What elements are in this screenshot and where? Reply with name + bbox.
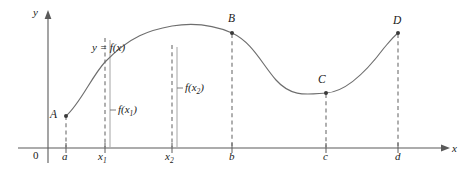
origin-label: 0 (33, 150, 39, 161)
measure-lines (110, 40, 177, 147)
point-marker-A (64, 114, 68, 118)
y-axis-arrowhead (45, 10, 52, 19)
point-marker-B (230, 31, 234, 35)
y-axis (45, 10, 52, 163)
curve-equation-label: y = f(x) (92, 42, 125, 53)
value-label-fx1: f(x1) (118, 104, 137, 118)
tick-label-d: d (395, 151, 401, 162)
value-label-fx2: f(x2) (185, 82, 204, 96)
point-label-A: A (50, 109, 57, 121)
value-label-fx2-base: f(x (185, 81, 197, 93)
x-axis-label: x (452, 143, 457, 154)
tick-label-c: c (323, 151, 328, 162)
point-label-C: C (318, 74, 326, 86)
point-label-B: B (228, 13, 235, 25)
tick-label-x1-subscript: 1 (103, 156, 107, 165)
tick-label-a: a (62, 151, 68, 162)
point-marker-C (324, 91, 328, 95)
tick-label-b: b (229, 151, 235, 162)
point-marker-D (396, 31, 400, 35)
value-label-fx1-close: ) (133, 103, 137, 115)
value-label-fx2-close: ) (200, 81, 204, 93)
point-label-D: D (393, 15, 401, 27)
x-axis-arrowhead (441, 145, 450, 152)
function-graph-figure: y x 0 y = f(x) a x1 x2 b c d A B C D f(x… (0, 0, 468, 172)
tick-label-x2: x2 (165, 151, 174, 165)
tick-label-x2-subscript: 2 (170, 156, 174, 165)
value-label-fx1-base: f(x (118, 103, 130, 115)
y-axis-label: y (33, 7, 38, 18)
tick-label-x1: x1 (98, 151, 107, 165)
